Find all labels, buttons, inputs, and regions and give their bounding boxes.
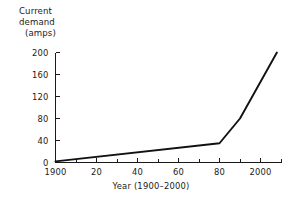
y-tick-label-40: 40 — [37, 136, 48, 146]
y-tick-label-200: 200 — [32, 48, 49, 58]
series-line-current-demand — [56, 53, 277, 162]
chart-container: Current demand (amps) 04080120160200 190… — [0, 0, 288, 203]
chart-plot-area: 04080120160200 1900204060802000 Year (19… — [0, 0, 288, 203]
y-tick-label-80: 80 — [37, 114, 48, 124]
x-tick-label-20: 20 — [91, 167, 102, 177]
x-axis-ticks — [56, 158, 282, 163]
x-axis-tick-labels: 1900204060802000 — [44, 167, 271, 177]
x-tick-label-2000: 2000 — [249, 167, 271, 177]
x-tick-label-40: 40 — [132, 167, 143, 177]
y-tick-label-160: 160 — [32, 70, 49, 80]
y-axis-tick-labels: 04080120160200 — [32, 48, 49, 168]
x-tick-label-1900: 1900 — [44, 167, 66, 177]
y-tick-label-120: 120 — [32, 92, 49, 102]
x-tick-label-60: 60 — [173, 167, 184, 177]
x-axis-title: Year (1900–2000) — [112, 181, 190, 191]
data-series-group — [56, 53, 277, 162]
x-tick-label-80: 80 — [214, 167, 225, 177]
y-axis-ticks — [56, 53, 61, 163]
